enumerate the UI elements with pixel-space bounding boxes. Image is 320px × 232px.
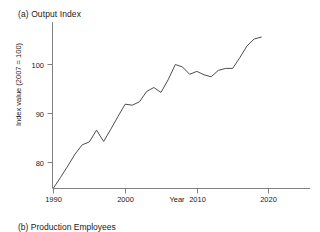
output-index-data-line — [54, 37, 262, 188]
y-axis-label: Index value (2007 = 100) — [14, 20, 23, 150]
y-tick-label-80: 80 — [36, 159, 44, 168]
chart-axes — [53, 22, 311, 189]
panel-a-output-index: (a) Output Index 100 90 80 1990 200 — [0, 0, 320, 214]
y-tick-label-90: 90 — [36, 110, 44, 119]
output-index-line-chart: 100 90 80 1990 2000 2010 2020 — [0, 0, 320, 205]
panel-b-title: (b) Production Employees — [18, 222, 116, 232]
y-axis-ticks: 100 90 80 — [31, 61, 52, 168]
x-axis-label: Year — [0, 195, 320, 204]
y-tick-label-100: 100 — [31, 61, 44, 70]
chart-plot-area: 100 90 80 1990 2000 2010 2020 Index valu… — [0, 0, 320, 205]
